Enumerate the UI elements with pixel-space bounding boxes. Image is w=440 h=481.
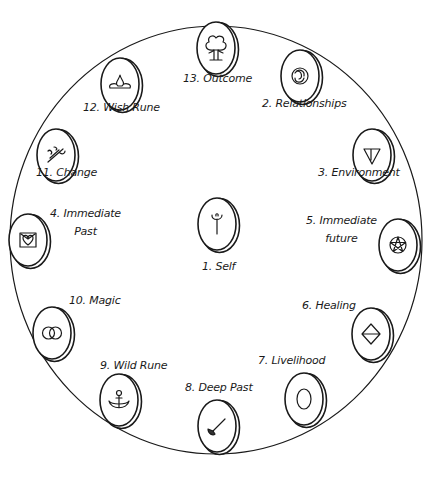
- rune-stone-figure-rune: [198, 198, 240, 253]
- label-relationships: 2. Relationships: [262, 97, 347, 110]
- label-magic: 10. Magic: [69, 294, 121, 307]
- label-immediate-future-line1: 5. Immediate: [306, 214, 377, 227]
- label-outcome: 13. Outcome: [183, 72, 252, 85]
- rune-stone-tree: [197, 22, 239, 77]
- label-livelihood: 7. Livelihood: [258, 354, 325, 367]
- label-deep-past: 8. Deep Past: [185, 381, 253, 394]
- label-environment: 3. Environment: [318, 166, 400, 179]
- label-immediate-future: 5. Immediate future: [306, 214, 377, 245]
- rune-stone-heart-box: [9, 214, 51, 269]
- rune-stone-interlocked-rings: [33, 307, 75, 362]
- label-self: 1. Self: [202, 260, 235, 273]
- rune-stone-ring: [285, 373, 327, 428]
- rune-stone-pentacle: [379, 219, 421, 274]
- label-wild-rune: 9. Wild Rune: [100, 359, 167, 372]
- label-immediate-past-line1: 4. Immediate: [50, 207, 121, 220]
- label-wish-rune: 12. Wish Rune: [83, 101, 160, 114]
- rune-spread-diagram: 1. Self 2. Relationships 3. Environment …: [0, 0, 440, 481]
- rune-stone-anchor: [100, 374, 142, 429]
- label-immediate-past-line2: Past: [50, 220, 121, 238]
- rune-stone-broom: [198, 400, 240, 455]
- label-healing: 6. Healing: [302, 299, 356, 312]
- label-immediate-past: 4. Immediate Past: [50, 207, 121, 238]
- rune-stone-diamond: [352, 308, 394, 363]
- label-immediate-future-line2: future: [306, 227, 377, 245]
- label-change: 11. Change: [36, 166, 97, 179]
